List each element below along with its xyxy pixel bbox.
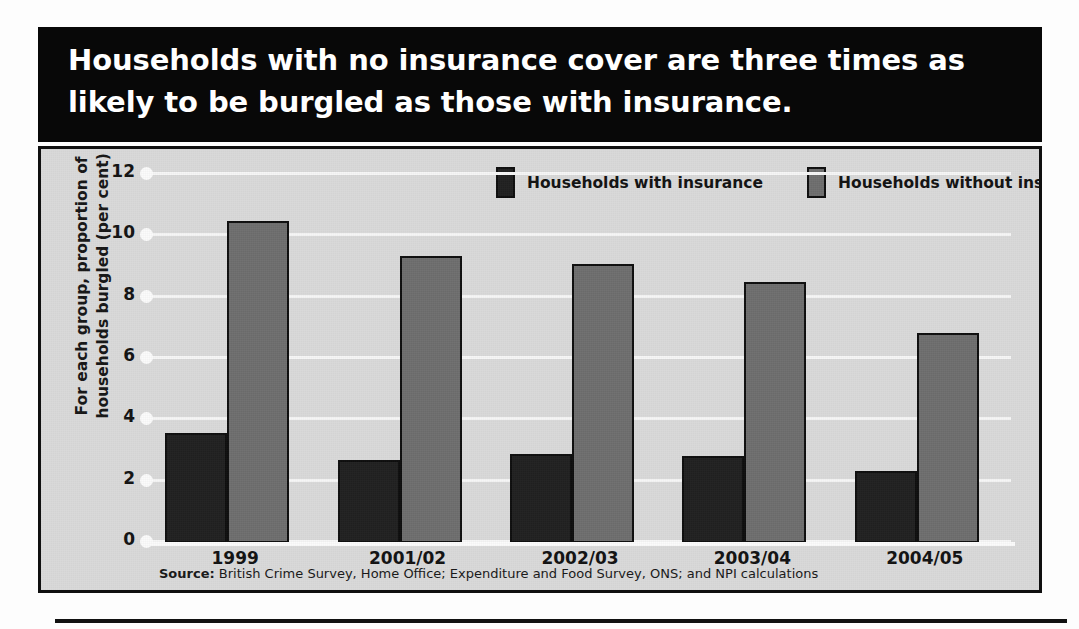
bottom-rule <box>55 619 1067 623</box>
bar <box>510 454 572 543</box>
y-axis-tick-label: 2 <box>123 468 135 488</box>
bar <box>572 264 634 543</box>
x-axis-line <box>149 542 1015 546</box>
y-axis-tick-label: 4 <box>123 406 135 426</box>
bar <box>227 221 289 543</box>
source-prefix: Source: <box>159 566 215 581</box>
poster-figure: Households with no insurance cover are t… <box>0 0 1079 629</box>
chart-container: For each group, proportion of households… <box>38 146 1042 593</box>
source-text: British Crime Survey, Home Office; Expen… <box>215 566 819 581</box>
y-axis-tick-label: 0 <box>123 529 135 549</box>
x-axis-tick-label: 1999 <box>149 548 321 568</box>
bar-group <box>321 175 493 543</box>
bar-group <box>839 175 1011 543</box>
x-axis-tick-label: 2003/04 <box>666 548 838 568</box>
x-axis-tick-label: 2004/05 <box>839 548 1011 568</box>
bar <box>338 460 400 543</box>
x-axis-tick-label: 2001/02 <box>321 548 493 568</box>
y-axis-tick-label: 12 <box>111 161 135 181</box>
bar-series-group <box>149 175 1011 543</box>
bar-group <box>494 175 666 543</box>
bar <box>917 333 979 543</box>
bar <box>682 456 744 543</box>
bar <box>400 256 462 543</box>
bar <box>744 282 806 543</box>
page-title: Households with no insurance cover are t… <box>68 40 968 122</box>
source-note: Source: British Crime Survey, Home Offic… <box>159 566 818 581</box>
title-banner: Households with no insurance cover are t… <box>38 27 1042 142</box>
y-axis-tick-label: 6 <box>123 345 135 365</box>
x-axis-tick-label: 2002/03 <box>494 548 666 568</box>
bar-group <box>666 175 838 543</box>
bar-group <box>149 175 321 543</box>
y-axis-tick-label: 10 <box>111 222 135 242</box>
bar <box>855 471 917 543</box>
y-axis-title: For each group, proportion of households… <box>72 146 114 466</box>
bar <box>165 433 227 543</box>
plot-area: 024681012 <box>149 175 1011 543</box>
y-axis-tick-label: 8 <box>123 284 135 304</box>
